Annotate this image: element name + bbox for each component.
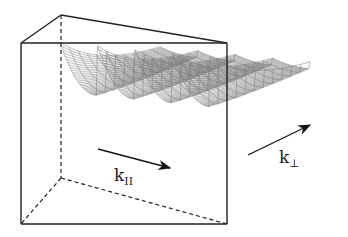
box-edges [21,15,227,224]
hidden-edges [21,15,227,224]
box-diagram [0,0,348,237]
k-parallel-arrow [98,149,170,168]
k-perp-label: k⊥ [279,147,300,170]
wireframe-surface [60,42,310,106]
k-parallel-label: kII [114,165,133,188]
figure: kII k⊥ [0,0,348,237]
